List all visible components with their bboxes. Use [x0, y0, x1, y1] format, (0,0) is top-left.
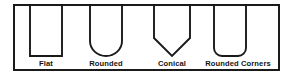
- label-conical: Conical: [158, 59, 186, 68]
- shape-rounded-corners: [214, 6, 246, 56]
- label-rounded-corners: Rounded Corners: [205, 59, 271, 68]
- bottom-shapes-diagram: Flat Rounded Conical Rounded Corners: [0, 0, 293, 78]
- diagram-canvas: Flat Rounded Conical Rounded Corners: [0, 0, 293, 78]
- shape-flat: [30, 6, 62, 56]
- label-flat: Flat: [39, 59, 53, 68]
- label-rounded: Rounded: [89, 59, 123, 68]
- shape-conical: [154, 6, 190, 56]
- shape-rounded: [90, 6, 122, 56]
